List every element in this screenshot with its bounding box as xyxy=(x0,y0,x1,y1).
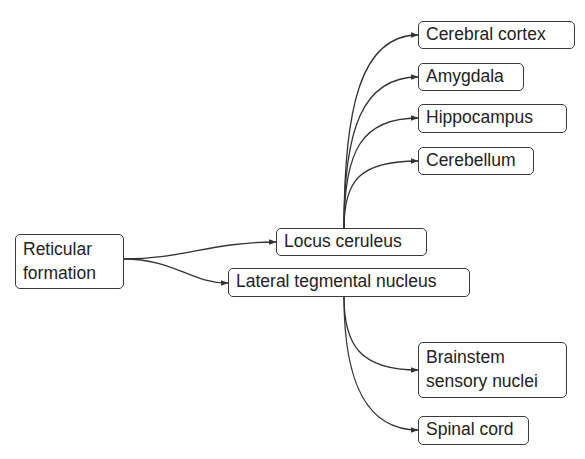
node-label: Lateral tegmental nucleus xyxy=(236,271,436,291)
node-reticular-formation: Reticular formation xyxy=(15,234,124,289)
node-label: Hippocampus xyxy=(426,107,533,127)
node-locus-ceruleus: Locus ceruleus xyxy=(276,228,427,256)
edge-ltn-to-spinal-cord xyxy=(344,297,418,430)
edge-lc-to-cerebellum xyxy=(344,161,418,228)
node-label-line2: sensory nuclei xyxy=(426,369,559,393)
edge-lc-to-hippocampus xyxy=(344,118,418,228)
node-label: Spinal cord xyxy=(426,419,514,439)
node-label-line1: Brainstem xyxy=(426,345,559,369)
node-cerebellum: Cerebellum xyxy=(418,147,534,175)
node-amygdala: Amygdala xyxy=(418,63,524,91)
edge-lc-to-cerebral-cortex xyxy=(344,35,418,228)
node-spinal-cord: Spinal cord xyxy=(418,416,529,445)
edge-ltn-to-brainstem xyxy=(344,297,418,370)
node-lateral-tegmental-nucleus: Lateral tegmental nucleus xyxy=(228,268,470,297)
node-hippocampus: Hippocampus xyxy=(418,104,567,133)
node-brainstem-sensory-nuclei: Brainstem sensory nuclei xyxy=(418,342,567,398)
node-label-line1: Reticular xyxy=(23,237,116,261)
node-label: Cerebellum xyxy=(426,150,515,170)
node-label: Locus ceruleus xyxy=(284,231,402,251)
node-label-line2: formation xyxy=(23,261,116,285)
node-label: Cerebral cortex xyxy=(426,24,546,44)
edge-reticular-to-locus-ceruleus xyxy=(123,242,276,259)
node-label: Amygdala xyxy=(426,66,504,86)
edge-reticular-to-lateral-tegmental xyxy=(123,259,228,283)
node-cerebral-cortex: Cerebral cortex xyxy=(418,21,575,49)
